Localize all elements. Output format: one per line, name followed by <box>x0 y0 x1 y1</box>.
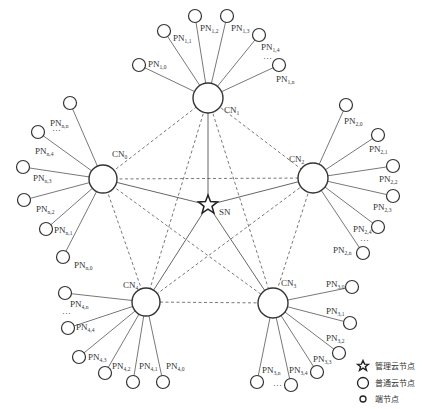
end-node-label: PN1,3 <box>231 23 250 34</box>
end-node-label: PN3,0 <box>326 279 345 290</box>
end-node-circle-icon <box>17 161 30 174</box>
end-node-label: PNn,3 <box>33 173 52 184</box>
cloud-node-circle-icon <box>258 288 288 318</box>
end-node-label: PNn,4 <box>35 146 54 157</box>
server-link <box>208 178 313 205</box>
large-circle-icon <box>358 378 369 389</box>
end-node-circle-icon <box>18 194 31 207</box>
end-node-circle-icon <box>372 221 385 234</box>
end-node-circle-icon <box>32 126 45 139</box>
cloud-node-label: CN0 <box>112 149 128 160</box>
cloud-node-circle-icon <box>89 165 117 193</box>
end-node-label: PN3,4 <box>289 365 308 376</box>
cloud-node-circle-icon <box>298 163 328 193</box>
end-node-label: PN4,2 <box>112 361 131 372</box>
end-node-label: PN2,n <box>333 245 352 256</box>
end-node-label: PN2,1 <box>369 144 388 155</box>
dashed-link <box>146 98 208 302</box>
server-link <box>208 205 273 303</box>
end-node-circle-icon <box>333 347 346 360</box>
end-node-label: PN2,2 <box>379 174 398 185</box>
network-topology-diagram: PNn,nPNn,4PNn,3PNn,2PNn,1PNn,0CN0···PN1,… <box>0 0 434 409</box>
end-node-label: PN4,0 <box>166 361 185 372</box>
dashed-link <box>208 98 273 303</box>
end-node-label: PN4,3 <box>88 352 107 363</box>
end-node-label: PN1,1 <box>173 33 192 44</box>
end-node-label: PN4,1 <box>139 361 158 372</box>
end-node-circle-icon <box>372 129 385 142</box>
end-node-label: PN3,n <box>262 365 281 376</box>
nodes <box>17 10 400 392</box>
legend-label-end-node: 端节点 <box>375 394 399 404</box>
small-circle-icon <box>360 396 366 402</box>
end-node-circle-icon <box>62 322 75 335</box>
cloud-node-circle-icon <box>132 288 160 316</box>
dashed-link <box>103 98 208 179</box>
ellipsis: ··· <box>263 53 272 63</box>
end-node-label: PN1,2 <box>200 23 219 34</box>
end-node-label: PN2,3 <box>373 202 392 213</box>
legend: 管理云节点 普通云节点 端节点 <box>358 361 416 405</box>
end-node-label: PNn,0 <box>74 260 93 271</box>
end-node-circle-icon <box>387 190 400 203</box>
cloud-node-circle-icon <box>193 83 223 113</box>
cloud-node-label: CN4 <box>123 280 139 291</box>
end-node-circle-icon <box>311 366 324 379</box>
end-node-circle-icon <box>127 376 140 389</box>
legend-label-cloud-node: 普通云节点 <box>375 378 415 388</box>
end-node-circle-icon <box>340 99 353 112</box>
cloud-node-label: CN1 <box>224 105 240 116</box>
end-node-label: PN3,1 <box>326 306 345 317</box>
end-node-circle-icon <box>157 376 170 389</box>
legend-item-cloud-node: 普通云节点 <box>358 378 416 389</box>
legend-item-management-node: 管理云节点 <box>358 361 415 372</box>
end-node-circle-icon <box>346 281 359 294</box>
server-link <box>146 205 208 302</box>
end-node-circle-icon <box>64 97 77 110</box>
end-node-label: PN4,n <box>70 299 89 310</box>
cloud-node-label: CN3 <box>281 278 297 289</box>
end-node-circle-icon <box>57 251 70 264</box>
end-node-circle-icon <box>344 317 357 330</box>
end-node-circle-icon <box>99 367 112 380</box>
end-node-circle-icon <box>357 247 370 260</box>
end-node-circle-icon <box>59 287 72 300</box>
end-node-label: PN3,2 <box>326 333 345 344</box>
server-link <box>103 179 208 205</box>
cloud-node-label: CN2 <box>289 154 305 165</box>
end-node-circle-icon <box>221 10 234 23</box>
end-node-label: PNn,2 <box>36 204 55 215</box>
end-node-label: PNn,1 <box>54 225 73 236</box>
end-node-circle-icon <box>40 223 53 236</box>
management-node-star-icon <box>199 195 218 213</box>
end-node-label: PN1,4 <box>261 42 280 53</box>
ellipsis: ··· <box>273 380 282 390</box>
end-node-circle-icon <box>251 376 264 389</box>
labels: PNn,nPNn,4PNn,3PNn,2PNn,1PNn,0CN0···PN1,… <box>33 23 398 390</box>
legend-label-management-node: 管理云节点 <box>375 361 415 371</box>
end-node-label: PN2,0 <box>344 116 363 127</box>
ellipsis: ··· <box>62 308 71 318</box>
end-node-circle-icon <box>253 29 266 42</box>
star-icon <box>358 361 369 371</box>
end-node-label: PN2,4 <box>353 224 372 235</box>
end-node-circle-icon <box>273 59 286 72</box>
dashed-link <box>146 302 273 303</box>
ellipsis: ··· <box>360 235 369 245</box>
end-node-label: PN1,n <box>276 74 295 85</box>
ellipsis: ··· <box>52 125 61 135</box>
end-node-circle-icon <box>158 25 171 38</box>
legend-item-end-node: 端节点 <box>360 394 399 404</box>
management-node-label: SN <box>219 207 231 217</box>
end-node-label: PN1,0 <box>148 59 167 70</box>
end-node-circle-icon <box>133 59 146 72</box>
end-node-circle-icon <box>73 351 86 364</box>
end-node-label: PN4,4 <box>76 322 95 333</box>
end-node-circle-icon <box>285 379 298 392</box>
end-node-label: PN3,3 <box>313 354 332 365</box>
end-node-circle-icon <box>189 10 202 23</box>
end-node-circle-icon <box>387 160 400 173</box>
